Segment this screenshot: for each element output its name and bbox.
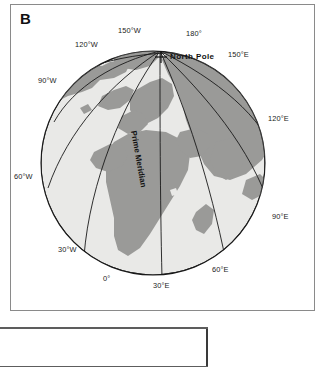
meridian-label: 90°W (38, 76, 57, 85)
meridian-150W (92, 40, 160, 51)
meridian-label: 0° (103, 274, 110, 283)
meridian-label: 150°E (228, 50, 249, 59)
north-pole-label: North Pole (170, 52, 214, 61)
panel-letter: B (20, 10, 31, 27)
meridian-label: 120°E (268, 114, 289, 123)
meridian-label: 120°W (75, 40, 98, 49)
meridian-label: 30°W (58, 245, 77, 254)
meridian-label: 60°E (212, 265, 229, 274)
globe-illustration: North Pole Prime Meridian (10, 4, 315, 311)
meridian-label: 90°E (272, 212, 289, 221)
globe-svg (10, 4, 315, 311)
meridian-label: 180° (186, 29, 202, 38)
land-alaska-siberia-bridge (24, 50, 70, 74)
lower-panel-border (0, 327, 208, 367)
meridian-label: 30°E (153, 281, 170, 290)
meridian-label: 150°W (118, 26, 141, 35)
meridian-label: 60°W (14, 172, 33, 181)
